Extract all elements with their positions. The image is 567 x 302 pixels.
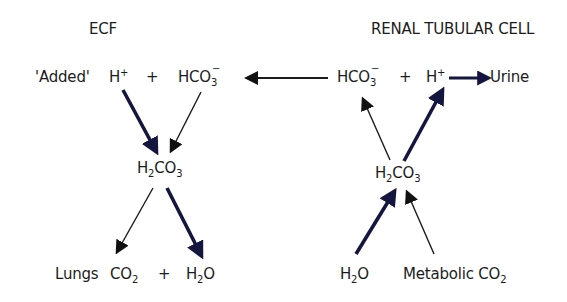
ecf-hydrogen-ion: H+ [109, 70, 128, 85]
reaction-arrows [0, 0, 567, 302]
ecf-carbonic-acid: H2CO3 [137, 161, 182, 176]
renal-bicarbonate: HCO−3 [337, 70, 379, 85]
arrow-carbonic-acid-to-water [167, 188, 201, 255]
arrow-h-to-carbonic-acid [123, 90, 156, 151]
ecf-plus-top: + [146, 70, 158, 85]
arrow-renal-carbonic-to-h [404, 91, 442, 161]
ecf-title: ECF [89, 22, 117, 37]
lungs-label: Lungs [55, 267, 98, 282]
renal-carbonic-acid: H2CO3 [375, 166, 420, 181]
renal-water: H2O [340, 267, 369, 282]
renal-plus-top: + [399, 70, 411, 85]
metabolic-co2: Metabolic CO2 [403, 267, 506, 282]
arrow-bicarb-to-carbonic-acid [171, 92, 201, 151]
ecf-carbon-dioxide: CO2 [110, 267, 138, 282]
renal-hydrogen-ion: H+ [426, 70, 445, 85]
arrow-metabolic-co2-to-renal-carbonic [407, 192, 434, 254]
ecf-bicarbonate: HCO−3 [178, 70, 220, 85]
arrow-water-to-renal-carbonic [356, 192, 394, 254]
renal-tubular-cell-title: RENAL TUBULAR CELL [371, 22, 534, 37]
arrow-carbonic-acid-to-co2 [117, 188, 153, 252]
ecf-plus-bottom: + [158, 267, 170, 282]
arrow-renal-carbonic-to-bicarb [363, 99, 390, 160]
ecf-water: H2O [186, 267, 215, 282]
urine-label: Urine [490, 70, 529, 85]
added-label: 'Added' [35, 70, 90, 85]
